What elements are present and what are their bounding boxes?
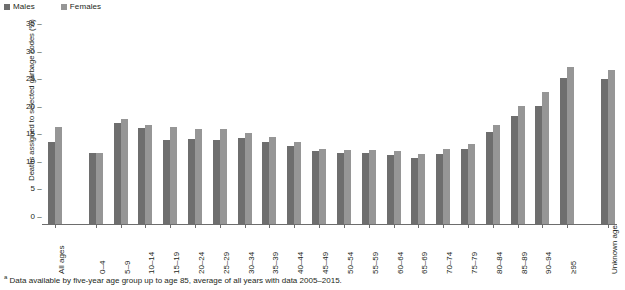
bar-group <box>560 31 574 224</box>
bar-females <box>220 129 227 224</box>
x-axis-label: 65–69 <box>421 252 429 274</box>
bar-females <box>468 144 475 225</box>
bar-groups <box>42 31 617 224</box>
bar-group <box>138 31 152 224</box>
bar-females <box>96 153 103 225</box>
x-axis-label: 60–64 <box>397 252 405 274</box>
x-tick <box>145 225 146 228</box>
bar-females <box>567 67 574 225</box>
x-tick <box>567 225 568 228</box>
bar-group <box>461 31 475 224</box>
bar-females <box>608 70 615 224</box>
bar-males <box>163 140 170 224</box>
bar-group <box>262 31 276 224</box>
bar-group <box>287 31 301 224</box>
x-tick <box>608 225 609 228</box>
bar-females <box>170 127 177 225</box>
bar-group <box>114 31 128 224</box>
bar-group <box>511 31 525 224</box>
x-tick <box>195 225 196 228</box>
x-tick <box>269 225 270 228</box>
bar-males <box>138 128 145 225</box>
x-axis-label: 25–29 <box>223 252 231 274</box>
x-tick <box>121 225 122 228</box>
bar-females <box>493 125 500 224</box>
x-axis-label: 85–89 <box>521 252 529 274</box>
bar-males <box>411 158 418 224</box>
y-tick-25: 25 – <box>26 75 42 83</box>
bar-males <box>560 78 567 224</box>
bar-males <box>89 153 96 225</box>
bar-females <box>269 137 276 224</box>
x-axis-label: 90–94 <box>545 252 553 274</box>
bar-group <box>337 31 351 224</box>
x-axis-line <box>42 224 617 225</box>
bar-males <box>387 155 394 224</box>
bar-group <box>535 31 549 224</box>
x-tick <box>518 225 519 228</box>
x-tick <box>55 225 56 228</box>
chart-container: Males Females Deaths assigned to selecte… <box>0 0 625 290</box>
chart-legend: Males Females <box>4 3 101 11</box>
bar-females <box>245 133 252 224</box>
legend-label-females: Females <box>70 3 101 11</box>
bar-males <box>337 153 344 225</box>
x-tick <box>394 225 395 228</box>
bar-females <box>394 151 401 224</box>
bar-males <box>535 106 542 225</box>
bar-males <box>362 153 369 225</box>
y-tick-15: 15 – <box>26 130 42 138</box>
y-tick-30: 30 – <box>26 48 42 56</box>
bar-females <box>418 154 425 224</box>
x-axis-label: 35–39 <box>272 252 280 274</box>
x-axis-label: Unknown age <box>611 225 619 274</box>
x-tick <box>542 225 543 228</box>
legend-item-females: Females <box>61 3 101 11</box>
bar-females <box>542 92 549 224</box>
x-axis-label: 55–59 <box>372 252 380 274</box>
bar-group <box>312 31 326 224</box>
y-tick-35: 35 – <box>26 20 42 28</box>
bar-females <box>55 127 62 225</box>
bar-males <box>48 142 55 225</box>
bar-males <box>461 149 468 224</box>
x-tick <box>96 225 97 228</box>
bar-group <box>387 31 401 224</box>
legend-swatch-females <box>61 4 67 10</box>
bar-females <box>369 150 376 224</box>
legend-swatch-males <box>4 4 10 10</box>
bar-males <box>511 116 518 224</box>
bar-females <box>319 149 326 225</box>
x-axis-label: 10–14 <box>148 252 156 274</box>
bar-group <box>188 31 202 224</box>
x-tick <box>369 225 370 228</box>
bar-males <box>436 154 443 225</box>
x-tick <box>344 225 345 228</box>
y-axis-title: Deaths assigned to selected garbage code… <box>28 5 36 195</box>
x-axis-label: 70–74 <box>446 252 454 274</box>
x-tick <box>220 225 221 228</box>
x-axis-labels: All ages0–45–910–1415–1920–2425–2930–343… <box>42 228 617 278</box>
bar-group <box>411 31 425 224</box>
x-axis-label: 15–19 <box>173 252 181 274</box>
x-tick <box>245 225 246 228</box>
x-axis-label: 45–49 <box>322 252 330 274</box>
bar-group <box>362 31 376 224</box>
x-axis-label: 30–34 <box>248 252 256 274</box>
x-tick <box>443 225 444 228</box>
x-tick <box>418 225 419 228</box>
bar-group <box>213 31 227 224</box>
bar-males <box>287 146 294 224</box>
y-tick-5: 5 – <box>31 185 42 193</box>
bar-group <box>238 31 252 224</box>
x-axis-label: 20–24 <box>198 252 206 274</box>
bar-group <box>48 31 62 224</box>
bar-males <box>262 142 269 225</box>
x-tick <box>170 225 171 228</box>
bar-males <box>601 79 608 224</box>
y-tick-10: 10 – <box>26 158 42 166</box>
x-axis-label: 75–79 <box>471 252 479 274</box>
x-tick <box>319 225 320 228</box>
x-tick <box>294 225 295 228</box>
bar-group <box>89 31 103 224</box>
